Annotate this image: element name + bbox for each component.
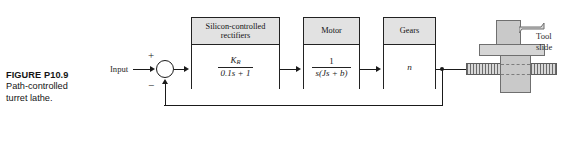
arrowhead-motor-input bbox=[296, 66, 301, 72]
motor-denominator: s(Js + b) bbox=[312, 68, 350, 79]
scr-numerator: KR bbox=[218, 55, 254, 68]
nut-hidden-edge-top bbox=[501, 64, 530, 65]
arrowhead-scr-input bbox=[184, 66, 189, 72]
block-diagram: Input + − Silicon-controlled rectifiers … bbox=[0, 0, 564, 150]
nut-hidden-edge-bottom bbox=[501, 74, 530, 75]
gears-ratio: n bbox=[407, 62, 412, 72]
lead-screw-right-segment bbox=[527, 63, 557, 75]
motor-block-body: 1 s(Js + b) bbox=[304, 45, 359, 89]
tool-slide-label-line-2: slide bbox=[536, 42, 564, 53]
summing-junction bbox=[156, 60, 174, 78]
gears-block-body: n bbox=[384, 45, 435, 89]
tool-slide-label-line-1: Tool bbox=[536, 31, 564, 42]
lead-screw-left-segment bbox=[466, 63, 504, 75]
summing-negative-sign: − bbox=[148, 80, 154, 90]
scr-header-line-1: Silicon-controlled bbox=[206, 22, 266, 31]
feedback-wire-vertical-left bbox=[165, 84, 166, 106]
input-arrowhead bbox=[150, 66, 155, 72]
tool-slide-label: Tool slide bbox=[536, 31, 564, 52]
motor-header-line-1: Motor bbox=[321, 26, 342, 35]
arrowhead-gears-input bbox=[376, 66, 381, 72]
tool-post bbox=[496, 20, 521, 45]
scr-transfer-function: KR 0.1s + 1 bbox=[218, 55, 254, 78]
motor-numerator: 1 bbox=[312, 56, 350, 68]
arrowhead-feedback-into-sum bbox=[162, 79, 168, 84]
motor-transfer-function: 1 s(Js + b) bbox=[312, 56, 350, 79]
block-gears: Gears n bbox=[383, 17, 436, 89]
block-motor: Motor 1 s(Js + b) bbox=[303, 17, 360, 89]
scr-denominator: 0.1s + 1 bbox=[218, 68, 254, 79]
gears-block-header: Gears bbox=[384, 18, 435, 45]
feedback-wire-vertical-right bbox=[442, 69, 443, 106]
feedback-wire-horizontal bbox=[164, 105, 443, 106]
block-silicon-controlled-rectifiers: Silicon-controlled rectifiers KR 0.1s + … bbox=[191, 17, 280, 89]
scr-block-header: Silicon-controlled rectifiers bbox=[192, 18, 279, 45]
motor-block-header: Motor bbox=[304, 18, 359, 45]
scr-block-body: KR 0.1s + 1 bbox=[192, 45, 279, 89]
input-label: Input bbox=[110, 64, 128, 74]
gears-header-line-1: Gears bbox=[400, 26, 419, 35]
scr-header-line-2: rectifiers bbox=[221, 31, 250, 40]
input-wire bbox=[133, 69, 151, 70]
summing-positive-sign: + bbox=[148, 50, 154, 60]
